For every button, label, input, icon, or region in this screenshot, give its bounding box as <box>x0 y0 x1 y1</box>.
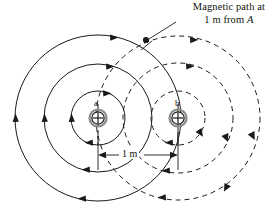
callout-label-line2: 1 m from A <box>193 14 265 27</box>
callout-label-line2-prefix: 1 m from <box>204 14 247 25</box>
conductor-a-label: a <box>94 99 98 108</box>
callout-anchor-dot <box>143 37 149 43</box>
dimension-label: 1 m <box>120 148 139 159</box>
callout-label-line1: Magnetic path at <box>193 1 265 12</box>
callout-label: Magnetic path at 1 m from A <box>193 1 265 26</box>
callout-label-line2-italic: A <box>247 14 254 25</box>
magnetic-field-figure: Magnetic path at 1 m from A a b 1 m <box>0 0 269 213</box>
conductor-b-label: b <box>175 99 180 108</box>
figure-canvas <box>0 0 269 213</box>
